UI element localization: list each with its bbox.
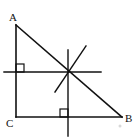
right-angle-on-CB-icon: [60, 109, 68, 117]
construction-lines: [4, 46, 101, 136]
vertex-label-a: A: [9, 11, 17, 23]
artifact-dot: [119, 125, 122, 128]
vertex-label-c: C: [6, 117, 13, 129]
line-third-line: [55, 46, 86, 92]
triangle-diagram: A B C: [0, 0, 140, 140]
vertex-label-b: B: [125, 112, 132, 124]
right-angle-on-AC-icon: [16, 64, 24, 72]
